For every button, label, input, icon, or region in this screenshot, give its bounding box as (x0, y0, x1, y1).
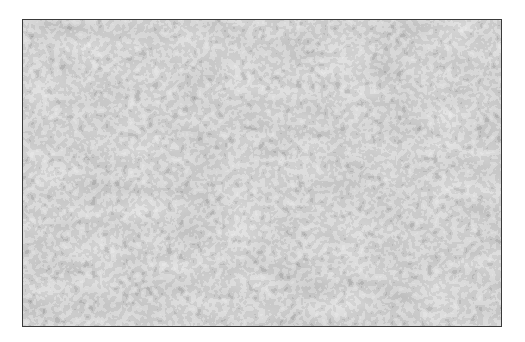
tissue-texture (23, 20, 501, 326)
micrograph-image (22, 19, 502, 327)
